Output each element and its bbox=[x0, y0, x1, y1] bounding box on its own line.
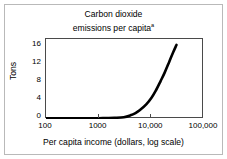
plot-svg bbox=[46, 39, 204, 119]
y-tick-label-12: 12 bbox=[19, 58, 41, 66]
chart-title-line-2: emissions per capita bbox=[73, 23, 151, 33]
y-axis-label: Tons bbox=[8, 49, 18, 93]
chart-title-footnote-marker: a bbox=[151, 22, 154, 28]
plot-area bbox=[45, 38, 203, 118]
chart-title-line-1: Carbon dioxide bbox=[85, 9, 143, 19]
x-tick-label-100: 100 bbox=[17, 121, 73, 130]
chart-figure: Carbon dioxideemissions per capitaa Tons… bbox=[0, 0, 227, 159]
chart-title: Carbon dioxideemissions per capitaa bbox=[0, 9, 227, 34]
y-tick-label-0: 0 bbox=[19, 112, 41, 120]
x-tick-mark-1000 bbox=[98, 114, 99, 118]
data-series-co2-line bbox=[46, 45, 176, 118]
y-tick-label-8: 8 bbox=[19, 76, 41, 84]
y-tick-label-16: 16 bbox=[19, 40, 41, 48]
x-tick-mark-10000 bbox=[150, 114, 151, 118]
x-axis-label: Per capita income (dollars, log scale) bbox=[0, 137, 227, 147]
x-tick-label-10000: 10,000 bbox=[122, 121, 178, 130]
x-tick-label-100000: 100,000 bbox=[175, 121, 227, 130]
y-tick-label-4: 4 bbox=[19, 94, 41, 102]
x-tick-label-1000: 1000 bbox=[70, 121, 126, 130]
